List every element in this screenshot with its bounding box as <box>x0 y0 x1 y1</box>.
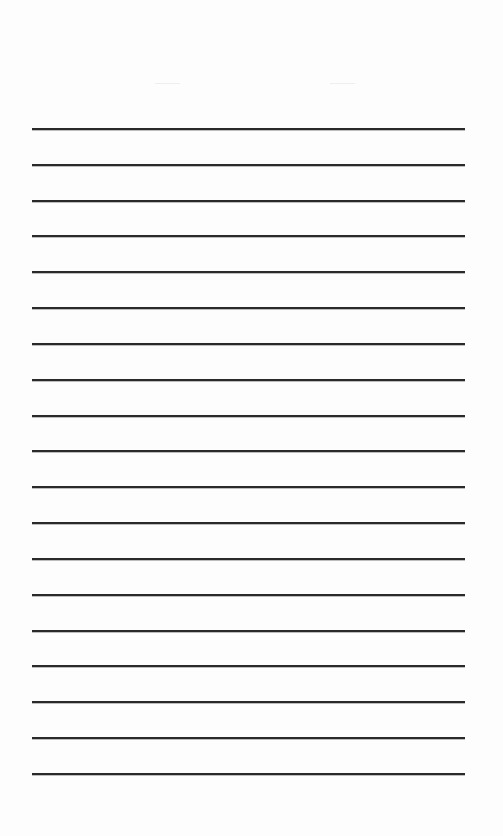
ruled-line <box>32 558 465 561</box>
ruled-line <box>32 486 465 489</box>
bleed-through-mark <box>155 83 180 84</box>
lined-paper-page <box>0 0 503 836</box>
ruled-line <box>32 128 465 131</box>
ruled-line <box>32 415 465 418</box>
ruled-line <box>32 450 465 453</box>
ruled-line <box>32 307 465 310</box>
bleed-through-mark <box>330 83 355 84</box>
ruled-line <box>32 665 465 668</box>
ruled-line <box>32 773 465 776</box>
ruled-line <box>32 522 465 525</box>
ruled-line <box>32 701 465 704</box>
ruled-line <box>32 164 465 167</box>
ruled-line <box>32 594 465 597</box>
ruled-line <box>32 630 465 633</box>
ruled-line <box>32 235 465 238</box>
ruled-line <box>32 343 465 346</box>
ruled-line <box>32 737 465 740</box>
ruled-line <box>32 379 465 382</box>
ruled-line <box>32 271 465 274</box>
ruled-line <box>32 200 465 203</box>
